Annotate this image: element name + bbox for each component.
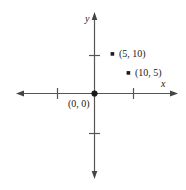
y-axis-label: y bbox=[85, 14, 89, 24]
data-point-label-5-10: (5, 10) bbox=[119, 49, 146, 59]
data-point-origin bbox=[91, 90, 97, 96]
data-point-5-10 bbox=[111, 52, 115, 56]
y-axis-up-arrow bbox=[92, 12, 98, 20]
data-point-10-5 bbox=[127, 71, 131, 75]
x-axis-right-arrow bbox=[170, 91, 178, 97]
data-point-label-10-5: (10, 5) bbox=[135, 68, 162, 78]
x-axis-label: x bbox=[161, 79, 165, 89]
coordinate-plane-svg bbox=[0, 0, 186, 190]
y-axis-down-arrow bbox=[92, 171, 98, 179]
origin-label: (0, 0) bbox=[68, 99, 90, 109]
coordinate-plane-figure: x y (5, 10) (10, 5) (0, 0) bbox=[0, 0, 186, 190]
x-axis-left-arrow bbox=[16, 91, 24, 97]
